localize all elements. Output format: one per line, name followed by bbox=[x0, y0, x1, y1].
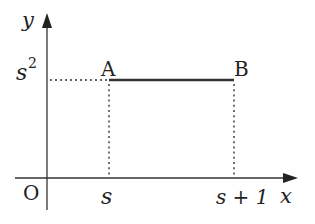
x-tick-s: s bbox=[101, 184, 112, 209]
point-b-label: B bbox=[234, 57, 249, 81]
x-axis-label: x bbox=[280, 184, 292, 208]
y-tick-s-squared: s bbox=[16, 60, 27, 85]
y-tick-exponent: 2 bbox=[28, 55, 37, 71]
y-axis-label: y bbox=[21, 8, 35, 32]
x-axis-arrow-icon bbox=[283, 173, 298, 183]
coordinate-diagram: y x O A B s 2 s s + 1 bbox=[0, 0, 315, 224]
y-axis-arrow-icon bbox=[42, 13, 52, 28]
x-tick-s-plus-one: s + 1 bbox=[216, 185, 268, 209]
origin-label: O bbox=[23, 181, 39, 205]
point-a-label: A bbox=[100, 57, 116, 81]
